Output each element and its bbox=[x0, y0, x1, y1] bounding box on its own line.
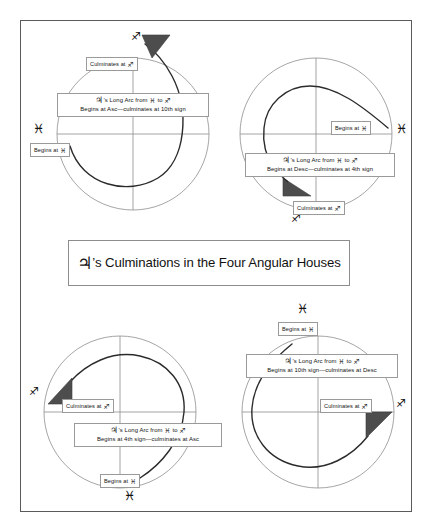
label-begins-top-right: Begins at ♓ bbox=[331, 121, 371, 135]
arc-line-2: Begins at Asc—culminates at 10th sign bbox=[62, 105, 204, 114]
arc-prefix: ’s Long Arc from bbox=[291, 157, 337, 163]
label-culminates-top-left: Culminates at ♐ bbox=[86, 57, 138, 71]
arc-line-1: ♃’s Long Arc from ♓ to ♐ bbox=[251, 357, 393, 366]
begins-text: Begins at bbox=[34, 147, 60, 153]
arc-prefix: ’s Long Arc from bbox=[293, 358, 339, 364]
arc-line-2: Begins at Desc—culminates at 4th sign bbox=[250, 165, 390, 174]
pisces-icon: ♓ bbox=[308, 325, 314, 333]
pisces-icon: ♓ bbox=[130, 477, 136, 485]
label-long-arc-top-left: ♃’s Long Arc from ♓ to ♐ Begins at Asc—c… bbox=[57, 93, 209, 117]
sagittarius-icon: ♐ bbox=[103, 402, 109, 410]
arc-line-1: ♃’s Long Arc from ♓ to ♐ bbox=[79, 426, 217, 435]
jupiter-icon: ♃ bbox=[284, 356, 292, 366]
arc-line-2: Begins at 4th sign—culminates at Asc bbox=[79, 435, 217, 444]
culminates-text: Culminates at bbox=[324, 403, 361, 409]
figure-title-box: ♃’s Culminations in the Four Angular Hou… bbox=[68, 240, 350, 286]
sagittarius-glyph-outer-top-right: ♐ bbox=[291, 213, 301, 224]
arc-mid: to bbox=[156, 97, 165, 103]
sagittarius-icon: ♐ bbox=[361, 402, 367, 410]
jupiter-icon: ♃ bbox=[110, 425, 118, 435]
arrowhead-culmination bbox=[366, 412, 392, 438]
pisces-glyph-outer-top-right: ♓ bbox=[396, 122, 408, 135]
label-long-arc-bottom-left: ♃’s Long Arc from ♓ to ♐ Begins at 4th s… bbox=[74, 423, 222, 447]
pisces-glyph-outer-top-left: ♓ bbox=[33, 122, 45, 135]
sagittarius-glyph-outer-bottom-left: ♐ bbox=[29, 386, 39, 397]
pisces-glyph-outer-bottom-left: ♓ bbox=[124, 489, 136, 502]
culminates-text: Culminates at bbox=[66, 403, 103, 409]
arc-line-2: Begins at 10th sign—culminates at Desc bbox=[251, 366, 393, 375]
arc-mid: to bbox=[345, 358, 354, 364]
pisces-glyph-outer-bottom-right: ♓ bbox=[297, 302, 309, 315]
arrowhead-culmination bbox=[142, 35, 170, 58]
label-long-arc-bottom-right: ♃’s Long Arc from ♓ to ♐ Begins at 10th … bbox=[246, 354, 398, 378]
sagittarius-glyph-outer-bottom-right: ♐ bbox=[396, 398, 406, 409]
label-culminates-top-right: Culminates at ♐ bbox=[293, 201, 345, 215]
sagittarius-icon: ♐ bbox=[334, 204, 340, 212]
pisces-icon: ♓ bbox=[361, 124, 367, 132]
label-begins-bottom-right: Begins at ♓ bbox=[278, 322, 318, 336]
culminates-text: Culminates at bbox=[90, 61, 127, 67]
jupiter-icon: ♃ bbox=[95, 95, 103, 105]
arc-line-1: ♃’s Long Arc from ♓ to ♐ bbox=[250, 156, 390, 165]
page-title: ♃’s Culminations in the Four Angular Hou… bbox=[77, 253, 341, 273]
jupiter-icon: ♃ bbox=[77, 253, 92, 273]
sagittarius-icon: ♐ bbox=[351, 157, 357, 165]
sagittarius-icon: ♐ bbox=[127, 60, 133, 68]
sagittarius-glyph-outer-top-left: ♐ bbox=[131, 31, 141, 42]
jupiter-long-arc bbox=[70, 355, 184, 478]
arc-mid: to bbox=[171, 427, 180, 433]
label-long-arc-top-right: ♃’s Long Arc from ♓ to ♐ Begins at Desc—… bbox=[245, 153, 395, 177]
label-culminates-bottom-right: Culminates at ♐ bbox=[320, 399, 372, 413]
arc-line-1: ♃’s Long Arc from ♓ to ♐ bbox=[62, 96, 204, 105]
arc-prefix: ’s Long Arc from bbox=[104, 97, 150, 103]
sagittarius-icon: ♐ bbox=[353, 358, 359, 366]
label-begins-top-left: Begins at ♓ bbox=[30, 143, 70, 157]
begins-text: Begins at bbox=[335, 125, 361, 131]
pisces-icon: ♓ bbox=[60, 146, 66, 154]
begins-text: Begins at bbox=[104, 478, 130, 484]
begins-text: Begins at bbox=[282, 326, 308, 332]
label-culminates-bottom-left: Culminates at ♐ bbox=[62, 399, 114, 413]
culminates-text: Culminates at bbox=[297, 205, 334, 211]
sagittarius-icon: ♐ bbox=[179, 427, 185, 435]
arc-mid: to bbox=[343, 157, 352, 163]
figure-page: ♓ ♐ Culminates at ♐ ♃’s Long Arc from ♓ … bbox=[0, 0, 432, 532]
arc-prefix: ’s Long Arc from bbox=[119, 427, 165, 433]
jupiter-icon: ♃ bbox=[282, 155, 290, 165]
title-label: ’s Culminations in the Four Angular Hous… bbox=[92, 255, 340, 270]
label-begins-bottom-left: Begins at ♓ bbox=[100, 474, 140, 488]
sagittarius-icon: ♐ bbox=[164, 97, 170, 105]
